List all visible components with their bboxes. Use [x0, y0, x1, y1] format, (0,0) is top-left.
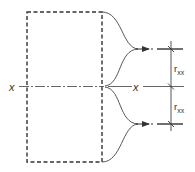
section-diagram: x x rxx rxx	[0, 0, 195, 172]
dimension-label-upper: rxx	[174, 63, 185, 76]
axis-label-right: x	[132, 81, 139, 93]
dimension-label-lower: rxx	[174, 101, 185, 114]
dimension-label-upper-sub: xx	[177, 69, 185, 76]
dimension-label-lower-sub: xx	[177, 107, 185, 114]
lower-outer-curve	[102, 124, 138, 162]
cross-section-outline	[27, 12, 102, 162]
upper-outer-curve	[102, 12, 138, 49]
axis-label-left: x	[8, 81, 15, 93]
